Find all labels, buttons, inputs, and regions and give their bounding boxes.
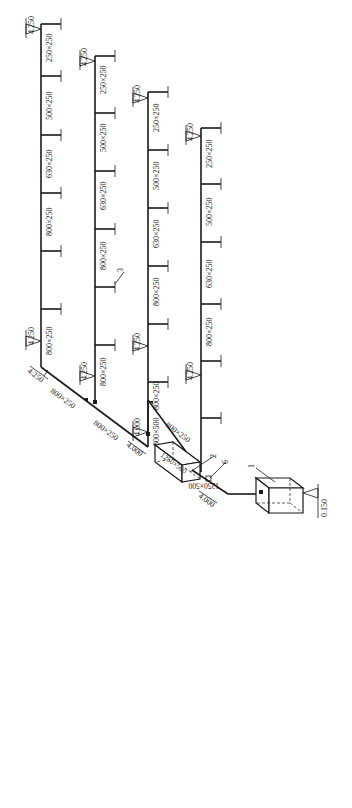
duct-size-label: 500×250 bbox=[45, 91, 54, 120]
duct-size-label: 630×250 bbox=[152, 219, 161, 248]
elevation-label: 4.250 bbox=[27, 327, 36, 345]
elevation-label: 4.000 bbox=[133, 418, 142, 436]
duct-size-label: 800×250 bbox=[99, 357, 108, 386]
duct-size-label: 500×250 bbox=[99, 123, 108, 152]
duct-size-label: 250×250 bbox=[205, 139, 214, 168]
duct-size-label: 500×250 bbox=[205, 197, 214, 226]
callout-1: 1 bbox=[247, 464, 256, 468]
elevation-label: 4.000 bbox=[197, 491, 217, 509]
elevation-label: 0.150 bbox=[320, 499, 329, 517]
duct-size-label: 800×250 bbox=[152, 277, 161, 306]
duct-size-label: 250×250 bbox=[152, 103, 161, 132]
callout-6: 6 bbox=[221, 460, 230, 464]
branch-2: 4.250 250×250 500×250 630×250 800×250 80… bbox=[80, 48, 125, 404]
duct-system-diagram: 4.250 250×250 500×250 630×250 800×250 80… bbox=[0, 0, 352, 808]
duct-size-label: 1250×500 bbox=[188, 481, 219, 490]
branch-4: 4.250 250×250 500×250 630×250 800×250 4.… bbox=[186, 122, 221, 472]
duct-size-label: 800×250 bbox=[45, 326, 54, 355]
duct-size-label: 800×500 bbox=[152, 417, 161, 446]
unit-1: 1 0.150 bbox=[247, 464, 329, 518]
duct-size-label: 800×250 bbox=[92, 418, 120, 442]
duct-size-label: 800×250 bbox=[45, 207, 54, 236]
duct-size-label: 800×250 bbox=[205, 317, 214, 346]
duct-size-label: 630×250 bbox=[45, 149, 54, 178]
elevation-label: 4.250 bbox=[80, 362, 89, 380]
duct-size-label: 800×250 bbox=[152, 381, 161, 410]
callout-3: 3 bbox=[116, 268, 125, 272]
callout-2: 2 bbox=[209, 454, 218, 458]
damper: 6 bbox=[206, 460, 230, 481]
duct-size-label: 630×250 bbox=[205, 259, 214, 288]
duct-size-label: 250×250 bbox=[45, 33, 54, 62]
duct-size-label: 500×250 bbox=[152, 161, 161, 190]
branch-3: 4.250 250×250 500×250 630×250 800×250 80… bbox=[133, 85, 168, 432]
duct-size-label: 250×250 bbox=[99, 65, 108, 94]
duct-size-label: 630×250 bbox=[99, 181, 108, 210]
duct-size-label: 800×250 bbox=[99, 241, 108, 270]
branch-1: 4.250 250×250 500×250 630×250 800×250 80… bbox=[26, 16, 61, 367]
